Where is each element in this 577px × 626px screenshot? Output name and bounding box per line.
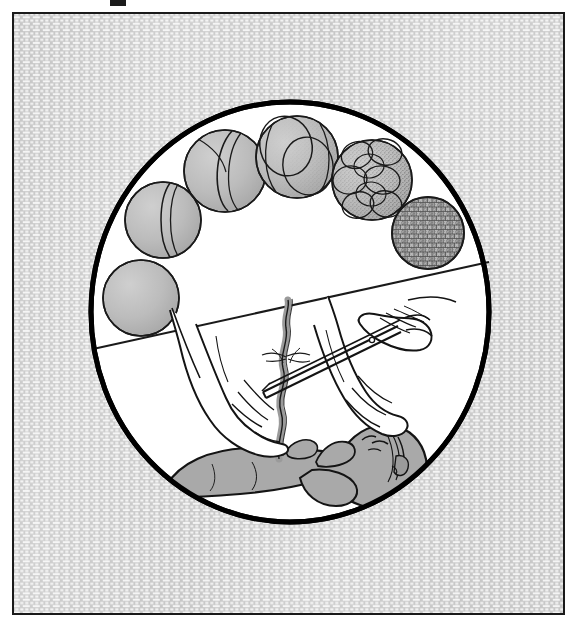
stage-morula-blastocyst	[392, 197, 464, 269]
stage-two-cell	[125, 182, 201, 258]
top-register-mark	[110, 0, 126, 6]
illustration-root	[0, 0, 577, 626]
illustration-canvas	[0, 0, 577, 626]
stage-two-cell-oblique	[184, 130, 266, 212]
stage-zygote-one-cell	[103, 260, 179, 336]
